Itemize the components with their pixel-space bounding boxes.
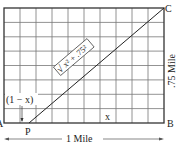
label-x: x bbox=[105, 111, 110, 122]
label-one-minus-x: (1 − x) bbox=[6, 94, 33, 106]
width-label: 1 Mile bbox=[66, 133, 93, 144]
point-C: C bbox=[165, 3, 172, 14]
point-B: B bbox=[167, 118, 174, 129]
hypotenuse-label: √ x² + .75² bbox=[53, 39, 94, 76]
height-label: .75 Mile bbox=[166, 54, 177, 88]
point-P: P bbox=[25, 126, 31, 137]
grid bbox=[4, 8, 164, 123]
arrow-left-icon bbox=[4, 138, 9, 141]
diagram-canvas: √ x² + .75² (1 − x) x A P B C 1 Mile .75… bbox=[0, 0, 178, 150]
arrow-right-icon bbox=[159, 138, 164, 141]
pointer-arrowhead-icon bbox=[21, 118, 24, 122]
